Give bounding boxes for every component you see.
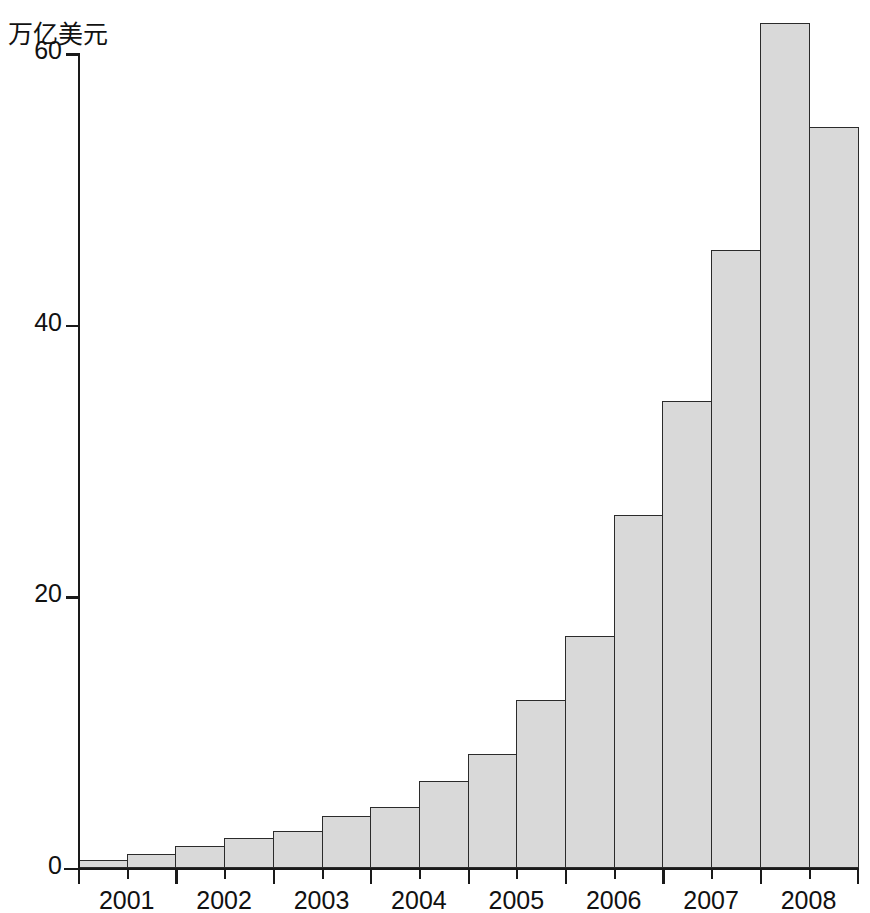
bar-fill-texture xyxy=(566,637,614,867)
bar xyxy=(662,401,712,868)
bar xyxy=(175,846,225,868)
y-tick-label: 40 xyxy=(10,308,62,337)
y-tick-label: 0 xyxy=(10,851,62,880)
bar-fill-texture xyxy=(176,847,224,867)
bar xyxy=(78,860,128,868)
bar xyxy=(760,23,810,868)
x-tick-mark-major xyxy=(760,870,762,884)
x-tick-mark-minor xyxy=(614,870,616,879)
bar xyxy=(273,831,323,868)
x-axis-line xyxy=(64,868,859,870)
x-tick-mark-major xyxy=(662,870,664,884)
bar xyxy=(322,816,372,868)
x-tick-mark-major xyxy=(565,870,567,884)
bar xyxy=(419,781,469,868)
x-tick-mark-major xyxy=(175,870,177,884)
y-tick-label: 20 xyxy=(10,579,62,608)
x-tick-mark-major xyxy=(857,870,859,884)
bar xyxy=(127,854,177,868)
bar-fill-texture xyxy=(469,755,517,867)
bar-fill-texture xyxy=(517,701,565,867)
x-tick-mark-minor xyxy=(322,870,324,879)
bar xyxy=(614,515,664,868)
bar xyxy=(370,807,420,868)
bar-fill-texture xyxy=(663,402,711,867)
bar-fill-texture xyxy=(615,516,663,867)
bar-fill-texture xyxy=(225,839,273,867)
bar-fill-texture xyxy=(712,251,760,867)
x-tick-mark-minor xyxy=(516,870,518,879)
x-tick-mark-major xyxy=(370,870,372,884)
x-tick-mark-minor xyxy=(224,870,226,879)
bar-fill-texture xyxy=(79,861,127,867)
bar xyxy=(809,127,859,868)
bar xyxy=(468,754,518,868)
x-tick-mark-minor xyxy=(419,870,421,879)
bar-fill-texture xyxy=(420,782,468,867)
bar-fill-texture xyxy=(761,24,809,867)
x-tick-mark-minor xyxy=(809,870,811,879)
y-tick-label: 60 xyxy=(10,36,62,65)
bar-fill-texture xyxy=(323,817,371,867)
x-tick-mark-minor xyxy=(127,870,129,879)
bar xyxy=(565,636,615,868)
bar-fill-texture xyxy=(274,832,322,867)
y-axis-line xyxy=(78,53,80,870)
bar xyxy=(224,838,274,868)
bar-fill-texture xyxy=(371,808,419,867)
bar xyxy=(711,250,761,868)
bar xyxy=(516,700,566,868)
x-tick-mark-minor xyxy=(711,870,713,879)
bar-fill-texture xyxy=(810,128,858,867)
bar-fill-texture xyxy=(128,855,176,867)
x-tick-mark-major xyxy=(468,870,470,884)
x-tick-label: 2008 xyxy=(749,886,869,913)
x-tick-mark-major xyxy=(78,870,80,884)
x-tick-mark-major xyxy=(273,870,275,884)
